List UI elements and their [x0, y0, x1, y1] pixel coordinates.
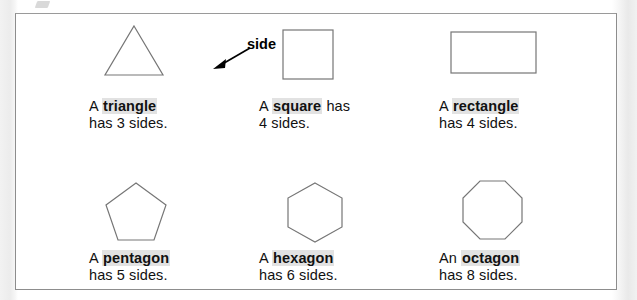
square-caption: A square has 4 sides.: [259, 98, 439, 132]
triangle-term: triangle: [102, 98, 157, 114]
square-tail: has: [322, 98, 350, 114]
square-slot: [259, 22, 439, 92]
octagon-line2: has 8 sides.: [439, 267, 518, 283]
hexagon-shape: [259, 174, 439, 244]
hexagon-caption: A hexagon has 6 sides.: [259, 250, 439, 284]
rectangle-caption: A rectangle has 4 sides.: [439, 98, 619, 132]
pentagon-article: A: [89, 250, 102, 266]
scan-artifact-mark: [35, 1, 51, 8]
square-shape: [259, 22, 439, 92]
square-term: square: [272, 98, 322, 114]
pentagon-slot: [89, 174, 269, 244]
octagon-slot: [439, 174, 619, 244]
shape-cell-rectangle: A rectangle has 4 sides.: [439, 22, 619, 132]
square-line2: 4 sides.: [259, 115, 310, 131]
rectangle-line2: has 4 sides.: [439, 115, 518, 131]
shape-cell-square: A square has 4 sides.: [259, 22, 439, 132]
hexagon-article: A: [259, 250, 272, 266]
hexagon-line2: has 6 sides.: [259, 267, 338, 283]
pentagon-line2: has 5 sides.: [89, 267, 168, 283]
pentagon-term: pentagon: [102, 250, 170, 266]
pentagon-shape: [89, 174, 269, 244]
hexagon-term: hexagon: [272, 250, 334, 266]
triangle-caption: A triangle has 3 sides.: [89, 98, 269, 132]
square-article: A: [259, 98, 272, 114]
octagon-article: An: [439, 250, 461, 266]
rectangle-term: rectangle: [452, 98, 519, 114]
pentagon-caption: A pentagon has 5 sides.: [89, 250, 269, 284]
shape-cell-octagon: An octagon has 8 sides.: [439, 174, 619, 284]
shapes-figure-box: side A triangle has 3 sides. A square ha…: [15, 13, 617, 290]
shape-cell-pentagon: A pentagon has 5 sides.: [89, 174, 269, 284]
triangle-line2: has 3 sides.: [89, 115, 168, 131]
hexagon-slot: [259, 174, 439, 244]
triangle-slot: side: [89, 22, 269, 92]
octagon-shape: [439, 174, 619, 244]
rectangle-article: A: [439, 98, 452, 114]
rectangle-slot: [439, 22, 619, 92]
triangle-article: A: [89, 98, 102, 114]
rectangle-shape: [439, 22, 619, 92]
octagon-caption: An octagon has 8 sides.: [439, 250, 619, 284]
shapes-grid: side A triangle has 3 sides. A square ha…: [16, 14, 616, 289]
shape-cell-triangle: side A triangle has 3 sides.: [89, 22, 269, 132]
shape-cell-hexagon: A hexagon has 6 sides.: [259, 174, 439, 284]
octagon-term: octagon: [461, 250, 520, 266]
